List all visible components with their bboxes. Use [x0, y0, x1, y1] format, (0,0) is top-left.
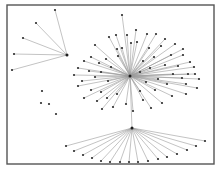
leaf-node — [110, 66, 112, 68]
leaf-node — [155, 33, 157, 35]
leaf-node — [90, 89, 92, 91]
leaf-node — [107, 80, 109, 82]
leaf-node — [101, 108, 103, 110]
leaf-node — [112, 106, 114, 108]
leaf-node — [185, 83, 187, 85]
leaf-node — [177, 65, 179, 67]
isolated-node — [48, 103, 50, 105]
leaf-node — [54, 9, 56, 11]
isolated-node — [55, 113, 57, 115]
leaf-node — [181, 77, 183, 79]
leaf-node — [121, 14, 123, 16]
leaf-node — [116, 93, 118, 95]
leaf-node — [77, 67, 79, 69]
leaf-node — [119, 161, 121, 163]
leaf-node — [187, 73, 189, 75]
leaf-node — [161, 102, 163, 104]
leaf-node — [81, 80, 83, 82]
leaf-node — [146, 33, 148, 35]
hub-node — [66, 54, 69, 57]
leaf-node — [160, 45, 162, 47]
leaf-node — [189, 61, 191, 63]
leaf-node — [176, 153, 178, 155]
isolated-node — [40, 102, 42, 104]
leaf-node — [128, 161, 130, 163]
leaf-node — [11, 69, 13, 71]
leaf-node — [157, 158, 159, 160]
leaf-node — [82, 154, 84, 156]
leaf-node — [73, 150, 75, 152]
leaf-node — [153, 56, 155, 58]
leaf-node — [139, 90, 141, 92]
leaf-node — [142, 60, 144, 62]
leaf-node — [94, 76, 96, 78]
leaf-node — [117, 55, 119, 57]
leaf-node — [115, 34, 117, 36]
leaf-node — [105, 58, 107, 60]
isolated-node — [41, 90, 43, 92]
leaf-node — [148, 47, 150, 49]
leaf-node — [109, 161, 111, 163]
network-graph — [0, 0, 218, 170]
leaf-node — [121, 47, 123, 49]
leaf-node — [164, 64, 166, 66]
leaf-node — [130, 42, 132, 44]
leaf-node — [182, 54, 184, 56]
leaf-node — [172, 73, 174, 75]
leaf-node — [204, 140, 206, 142]
leaf-node — [116, 48, 118, 50]
leaf-node — [186, 149, 188, 151]
leaf-node — [96, 100, 98, 102]
leaf-node — [126, 34, 128, 36]
leaf-node — [195, 145, 197, 147]
leaf-node — [73, 74, 75, 76]
leaf-node — [13, 53, 15, 55]
leaf-node — [100, 91, 102, 93]
leaf-node — [196, 87, 198, 89]
leaf-node — [100, 160, 102, 162]
leaf-node — [83, 97, 85, 99]
leaf-node — [132, 110, 134, 112]
leaf-node — [142, 99, 144, 101]
leaf-node — [91, 157, 93, 159]
hub-node — [129, 75, 132, 78]
leaf-node — [150, 107, 152, 109]
leaf-node — [77, 85, 79, 87]
leaf-node — [166, 83, 168, 85]
leaf-node — [171, 95, 173, 97]
leaf-node — [108, 36, 110, 38]
leaf-node — [174, 43, 176, 45]
leaf-node — [147, 160, 149, 162]
leaf-node — [193, 66, 195, 68]
leaf-node — [136, 41, 138, 43]
leaf-node — [35, 22, 37, 24]
leaf-node — [65, 145, 67, 147]
leaf-node — [100, 71, 102, 73]
leaf-node — [135, 29, 137, 31]
leaf-node — [194, 73, 196, 75]
leaf-node — [185, 93, 187, 95]
leaf-node — [154, 89, 156, 91]
leaf-node — [139, 71, 141, 73]
leaf-node — [170, 54, 172, 56]
leaf-node — [164, 38, 166, 40]
leaf-node — [22, 37, 24, 39]
leaf-node — [88, 70, 90, 72]
leaf-node — [166, 156, 168, 158]
leaf-node — [106, 97, 108, 99]
leaf-node — [149, 67, 151, 69]
leaf-node — [137, 161, 139, 163]
leaf-node — [182, 48, 184, 50]
leaf-node — [83, 60, 85, 62]
leaf-node — [125, 103, 127, 105]
leaf-node — [157, 78, 159, 80]
leaf-node — [94, 44, 96, 46]
hub-node — [131, 127, 134, 130]
leaf-node — [90, 56, 92, 58]
leaf-node — [198, 78, 200, 80]
leaf-node — [98, 62, 100, 64]
leaf-node — [145, 81, 147, 83]
